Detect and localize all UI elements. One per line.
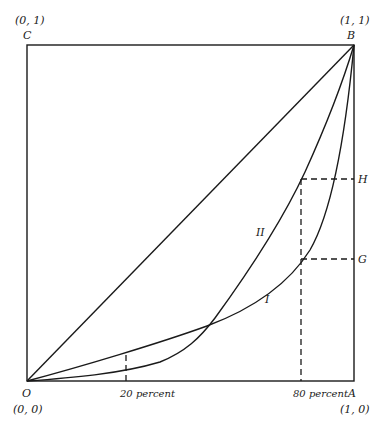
corner-o-label: O (22, 387, 31, 400)
tick-80-percent: 80 percent (293, 388, 349, 399)
corner-a-label: A (347, 387, 356, 400)
corner-b-coord: (1, 1) (340, 14, 370, 27)
equality-diagonal (27, 45, 354, 381)
marker-h: H (357, 173, 368, 186)
curve-II-label: II (255, 226, 265, 239)
corner-b-label: B (346, 29, 355, 42)
corner-o-coord: (0, 0) (13, 403, 43, 416)
lorenz-diagram: (0, 1) C (1, 1) B O (0, 0) A (1, 0) 20 p… (0, 0, 385, 432)
corner-a-coord: (1, 0) (340, 403, 370, 416)
marker-g: G (358, 253, 367, 266)
corner-c-coord: (0, 1) (15, 14, 45, 27)
curve-I-label: I (264, 293, 270, 306)
corner-c-label: C (23, 29, 32, 42)
tick-20-percent: 20 percent (119, 388, 176, 399)
